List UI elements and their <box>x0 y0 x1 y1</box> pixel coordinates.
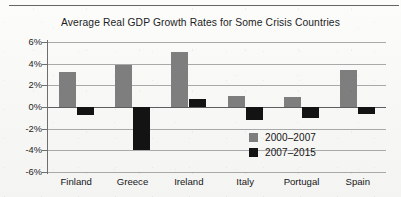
bar-finland-series-1[interactable] <box>59 72 76 107</box>
y-axis-tick <box>42 129 48 130</box>
y-axis-label: 4% <box>2 59 42 69</box>
x-axis-label-spain: Spain <box>346 176 371 187</box>
x-axis-label-ireland: Ireland <box>174 176 203 187</box>
x-axis-label-finland: Finland <box>60 176 91 187</box>
y-axis-tick <box>42 172 48 173</box>
chart-figure: Average Real GDP Growth Rates for Some C… <box>0 0 401 197</box>
y-axis-tick <box>42 64 48 65</box>
y-axis-label: 6% <box>2 37 42 47</box>
y-axis-label: -2% <box>2 124 42 134</box>
chart-legend: 2000–20072007–2015 <box>249 130 359 160</box>
bar-greece-series-2[interactable] <box>133 107 150 150</box>
gridline <box>48 172 386 173</box>
legend-label: 2007–2015 <box>265 147 316 158</box>
bar-italy-series-2[interactable] <box>246 107 263 120</box>
legend-swatch-icon <box>249 148 258 157</box>
page-rule-divider <box>9 5 399 6</box>
y-axis-label: 2% <box>2 80 42 90</box>
y-axis-tick <box>42 42 48 43</box>
y-axis-label: -6% <box>2 167 42 177</box>
bar-greece-series-1[interactable] <box>115 65 132 107</box>
x-axis-label-italy: Italy <box>236 176 254 187</box>
bar-group <box>48 42 104 172</box>
y-axis-tick-labels: 6%4%2%0%-2%-4%-6% <box>0 42 42 172</box>
chart-title: Average Real GDP Growth Rates for Some C… <box>0 17 401 28</box>
legend-label: 2000–2007 <box>265 132 316 143</box>
y-axis-tick <box>42 150 48 151</box>
bar-italy-series-1[interactable] <box>228 96 245 107</box>
bar-ireland-series-1[interactable] <box>171 52 188 107</box>
bar-finland-series-2[interactable] <box>77 107 94 115</box>
legend-swatch-icon <box>249 133 258 142</box>
x-axis-label-portugal: Portugal <box>284 176 320 187</box>
bar-spain-series-2[interactable] <box>358 107 375 114</box>
bar-ireland-series-2[interactable] <box>189 99 206 107</box>
bar-group <box>161 42 217 172</box>
bar-group <box>104 42 160 172</box>
bar-spain-series-1[interactable] <box>340 70 357 107</box>
y-axis-tick <box>42 85 48 86</box>
y-axis-label: -4% <box>2 145 42 155</box>
x-axis-label-greece: Greece <box>117 176 148 187</box>
legend-item-2[interactable]: 2007–2015 <box>249 145 359 160</box>
legend-item-1[interactable]: 2000–2007 <box>249 130 359 145</box>
x-axis-tick-labels: FinlandGreeceIrelandItalyPortugalSpain <box>48 176 386 192</box>
y-axis-tick <box>42 107 48 108</box>
bar-portugal-series-2[interactable] <box>302 107 319 118</box>
y-axis-label: 0% <box>2 102 42 112</box>
bar-portugal-series-1[interactable] <box>284 97 301 107</box>
